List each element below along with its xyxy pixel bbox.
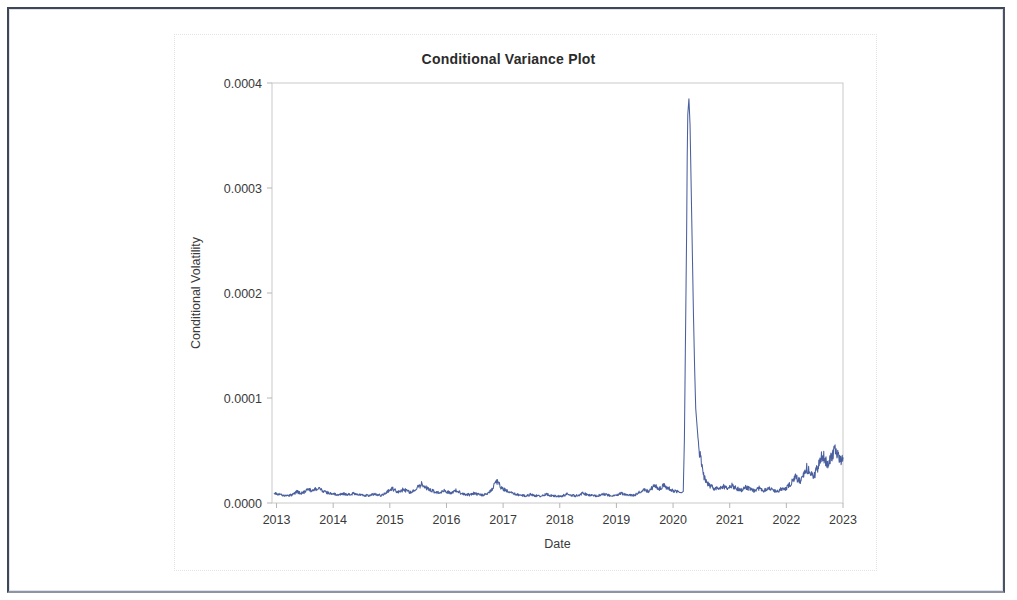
- x-tick-label: 2022: [772, 513, 800, 527]
- x-tick-label: 2014: [319, 513, 347, 527]
- y-tick-label: 0.0002: [224, 287, 262, 301]
- x-tick-label: 2016: [433, 513, 461, 527]
- plot-frame-group: [272, 83, 843, 503]
- x-axis-title: Date: [544, 537, 570, 551]
- y-axis-title: Conditional Volatility: [189, 236, 203, 349]
- x-tick-label: 2020: [659, 513, 687, 527]
- data-series-group: [274, 99, 843, 497]
- y-axis-ticks-group: 0.00000.00010.00020.00030.0004: [224, 77, 272, 511]
- x-axis-ticks-group: 2013201420152016201720182019202020212022…: [263, 503, 857, 527]
- conditional-variance-chart: Conditional Variance Plot 0.00000.00010.…: [0, 0, 1017, 600]
- series-line-1: [274, 99, 843, 497]
- chart-plot-svg: 0.00000.00010.00020.00030.0004 201320142…: [0, 0, 1017, 600]
- plot-area-border: [272, 83, 843, 503]
- y-tick-label: 0.0004: [224, 77, 262, 91]
- x-tick-label: 2013: [263, 513, 291, 527]
- y-tick-label: 0.0001: [224, 392, 262, 406]
- x-tick-label: 2018: [546, 513, 574, 527]
- y-tick-label: 0.0003: [224, 182, 262, 196]
- x-tick-label: 2019: [603, 513, 631, 527]
- x-tick-label: 2021: [716, 513, 744, 527]
- x-tick-label: 2017: [489, 513, 517, 527]
- y-tick-label: 0.0000: [224, 497, 262, 511]
- scanned-page: Conditional Variance Plot 0.00000.00010.…: [0, 0, 1017, 600]
- x-tick-label: 2015: [376, 513, 404, 527]
- x-tick-label: 2023: [829, 513, 857, 527]
